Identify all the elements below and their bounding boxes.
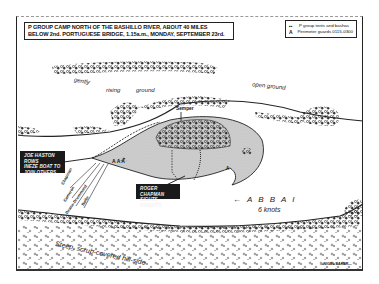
callout-line: SIGHTS BANDITS (140, 197, 176, 208)
map-frame (16, 16, 363, 271)
title-line-1: P GROUP CAMP NORTH OF THE BASHILLO RIVER… (28, 24, 230, 31)
river-label: ← A B B A I (233, 195, 297, 204)
legend-label: Perimeter guards 0115-0300 (297, 29, 353, 35)
map-legend: ▪▪ P group tents and bashas A Perimeter … (285, 20, 357, 38)
terrain-label-rising: rising (106, 87, 120, 93)
map-title: P GROUP CAMP NORTH OF THE BASHILLO RIVER… (24, 22, 234, 40)
river-arrow-icon: ← (233, 195, 243, 204)
river-name: A B B A I (247, 195, 297, 204)
callout-line: INEZE BOAT TO (24, 164, 61, 170)
callout-chapman: ROGER CHAPMAN SIGHTS BANDITS (136, 184, 180, 199)
callout-line: JOIN OTHERS (24, 170, 61, 176)
guard-icon: A (289, 29, 294, 35)
terrain-label-ground: ground (136, 87, 155, 93)
map-credit: —NIGEL BAKER— (320, 262, 352, 266)
river-speed: 6 knots (258, 206, 281, 213)
callout-line: ROGER CHAPMAN (140, 186, 176, 197)
title-line-2: BELOW 2nd. PORTUGUESE BRIDGE, 1.15a.m., … (28, 31, 230, 38)
place-label-semper: Semper (176, 106, 194, 111)
callout-haston: JOE HASTON ROWS INEZE BOAT TO JOIN OTHER… (20, 151, 65, 173)
legend-item-guards: A Perimeter guards 0115-0300 (289, 29, 353, 35)
callout-line: JOE HASTON ROWS (24, 153, 61, 164)
